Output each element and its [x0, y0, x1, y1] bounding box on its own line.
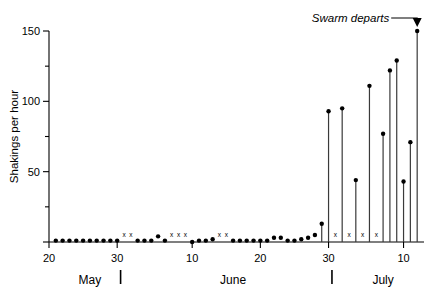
data-point: [156, 234, 160, 238]
data-point: [135, 238, 139, 242]
data-point: [163, 238, 167, 242]
data-point: [149, 238, 153, 242]
data-point: [60, 238, 64, 242]
data-point: [108, 238, 112, 242]
x-tick-label: 10: [186, 252, 198, 264]
data-point: [95, 238, 99, 242]
data-point: [88, 238, 92, 242]
data-point: [285, 238, 289, 242]
data-point: [279, 236, 283, 240]
data-point: [251, 238, 255, 242]
data-point: [74, 238, 78, 242]
y-tick-label: 100: [22, 95, 40, 107]
data-point: [245, 238, 249, 242]
missing-data-marker: x: [122, 231, 126, 238]
data-point: [238, 238, 242, 242]
missing-data-marker: x: [177, 231, 181, 238]
data-point: [101, 238, 105, 242]
data-point: [313, 233, 317, 237]
x-tick-label: 30: [111, 252, 123, 264]
y-axis-title: Shakings per hour: [8, 90, 20, 184]
missing-data-marker: x: [375, 231, 379, 238]
data-point: [354, 178, 358, 182]
data-point: [258, 238, 262, 242]
data-point: [115, 238, 119, 242]
missing-data-marker: x: [184, 231, 188, 238]
missing-data-marker: x: [225, 231, 229, 238]
x-tick-label: 20: [43, 252, 55, 264]
data-point: [54, 238, 58, 242]
data-point: [142, 238, 146, 242]
data-point: [204, 238, 208, 242]
data-point: [326, 109, 330, 113]
data-point: [67, 238, 71, 242]
missing-data-marker: x: [218, 231, 222, 238]
annotation-arrow-icon: [413, 18, 422, 27]
x-tick-label: 20: [254, 252, 266, 264]
month-label: June: [220, 273, 246, 287]
missing-data-marker: x: [347, 231, 351, 238]
data-point: [320, 222, 324, 226]
missing-data-marker: x: [361, 231, 365, 238]
data-point: [81, 238, 85, 242]
plot-area: 50100150Shakings per hour203010203010May…: [8, 12, 424, 287]
annotation-label: Swarm departs: [312, 12, 390, 24]
data-point: [388, 68, 392, 72]
month-label: May: [79, 273, 102, 287]
data-point: [306, 236, 310, 240]
data-point: [197, 238, 201, 242]
data-point: [381, 131, 385, 135]
data-point: [231, 238, 235, 242]
data-point: [340, 106, 344, 110]
data-point: [408, 140, 412, 144]
missing-data-marker: x: [129, 231, 133, 238]
data-point: [265, 238, 269, 242]
data-point: [292, 238, 296, 242]
missing-data-marker: x: [170, 231, 174, 238]
data-point: [401, 179, 405, 183]
data-point: [210, 237, 214, 241]
month-label: July: [372, 273, 393, 287]
data-point: [367, 84, 371, 88]
missing-data-marker: x: [334, 231, 338, 238]
y-tick-label: 50: [28, 166, 40, 178]
data-point: [190, 240, 194, 244]
x-tick-label: 30: [322, 252, 334, 264]
chart-figure: 50100150Shakings per hour203010203010May…: [0, 0, 433, 295]
x-tick-label: 10: [397, 252, 409, 264]
data-point: [395, 58, 399, 62]
data-point: [415, 29, 419, 33]
y-tick-label: 150: [22, 25, 40, 37]
data-point: [272, 236, 276, 240]
data-point: [299, 237, 303, 241]
chart-canvas: 50100150Shakings per hour203010203010May…: [0, 0, 433, 295]
